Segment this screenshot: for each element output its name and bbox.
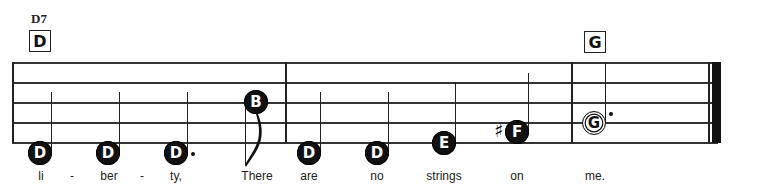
barline-start	[12, 62, 14, 143]
barline-2	[571, 62, 573, 143]
barline-1	[285, 62, 287, 143]
note-stem	[528, 73, 529, 132]
note-e: E	[432, 131, 456, 155]
eighth-flag-icon	[245, 112, 263, 168]
note-stem	[388, 92, 389, 152]
lyric-hyphen: -	[70, 169, 74, 183]
staff-line-4	[12, 122, 718, 124]
lyric-syllable: ty,	[170, 169, 182, 183]
chord-box-g: G	[584, 31, 606, 53]
chord-box-d: D	[29, 30, 51, 52]
note-d: D	[365, 141, 389, 165]
lyric-syllable: ber	[100, 169, 117, 183]
note-d: D	[164, 141, 188, 165]
staff-line-5	[12, 142, 718, 144]
lyric-syllable: on	[510, 169, 523, 183]
lyric-hyphen: -	[140, 169, 144, 183]
note-stem	[605, 62, 606, 123]
note-b: B	[244, 90, 268, 114]
lyric-syllable: no	[370, 169, 383, 183]
note-stem	[119, 92, 120, 152]
lyric-syllable: are	[300, 169, 317, 183]
note-stem	[187, 92, 188, 152]
note-f-sharp: F	[505, 120, 529, 144]
note-stem	[320, 92, 321, 152]
note-stem	[455, 82, 456, 143]
note-d: D	[96, 141, 120, 165]
note-d: D	[297, 141, 321, 165]
lyric-syllable: me.	[585, 169, 605, 183]
note-stem	[51, 92, 52, 152]
lyric-syllable: There	[241, 169, 272, 183]
final-barline-thick	[712, 62, 721, 143]
sharp-icon: ♯	[494, 119, 503, 141]
note-d: D	[28, 141, 52, 165]
augmentation-dot	[191, 152, 195, 156]
staff-line-2	[12, 82, 718, 84]
lyric-syllable: li	[38, 169, 43, 183]
final-barline-thin	[708, 62, 710, 143]
chord-name-d7: D7	[31, 11, 47, 27]
augmentation-dot	[609, 112, 613, 116]
note-g: G	[582, 111, 606, 135]
staff-line-1	[12, 62, 718, 64]
staff-line-3	[12, 102, 718, 104]
lyric-syllable: strings	[426, 169, 461, 183]
